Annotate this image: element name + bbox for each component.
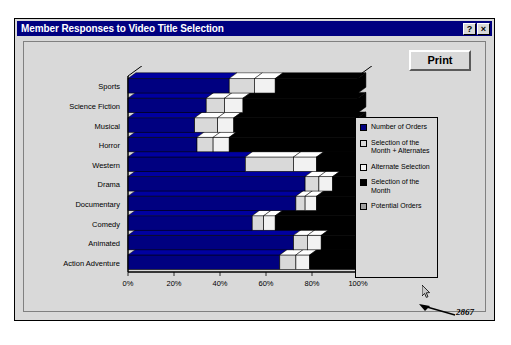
y-axis-tick-label: Science Fiction [69,102,120,111]
legend-item: Selection of the Month [360,178,433,195]
legend-label: Number of Orders [371,123,427,132]
y-axis-tick-label: Drama [97,180,120,189]
legend-label: Selection of the Month [371,178,433,195]
arrow-icon [419,304,457,318]
y-axis-tick-label: Musical [95,122,121,131]
legend-swatch-alternate-selection [360,164,367,171]
chart-window: Member Responses to Video Title Selectio… [14,18,495,321]
legend-item: Selection of the Month + Alternates [360,139,433,156]
legend-swatch-selection-of-the-month [360,179,367,186]
x-axis-tick-label: 80% [304,279,319,288]
legend-swatch-number-of-orders [360,124,367,131]
y-axis-tick-label: Action Adventure [63,259,120,268]
annotation-value: 2867 [456,307,474,317]
y-axis-tick-label: Animated [88,239,120,248]
x-axis-tick-label: 40% [212,279,227,288]
y-axis-tick-label: Comedy [92,220,120,229]
x-axis-tick-label: 100% [348,279,368,288]
y-axis-tick-label: Western [92,161,120,170]
close-button[interactable]: × [477,23,490,35]
legend-item: Number of Orders [360,123,433,132]
chart-panel: Print Action AdventureAnimatedComedyDocu… [23,41,486,312]
chart-legend: Number of Orders Selection of the Month … [355,117,438,278]
legend-item: Alternate Selection [360,163,433,172]
legend-swatch-selection-plus-alternates [360,140,367,147]
window-title: Member Responses to Video Title Selectio… [19,23,462,34]
mouse-pointer-icon [422,285,431,298]
legend-swatch-potential-orders [360,203,367,210]
legend-item: Potential Orders [360,202,433,211]
y-axis-tick-label: Horror [99,141,121,150]
y-axis-tick-label: Sports [98,82,120,91]
window-titlebar: Member Responses to Video Title Selectio… [17,21,492,36]
legend-label: Potential Orders [371,202,422,211]
legend-label: Alternate Selection [371,163,430,172]
x-axis-tick-label: 60% [258,279,273,288]
x-axis-tick-label: 20% [166,279,181,288]
legend-label: Selection of the Month + Alternates [371,139,433,156]
help-button[interactable]: ? [463,23,476,35]
x-axis-tick-label: 0% [123,279,134,288]
y-axis-tick-label: Documentary [75,200,120,209]
